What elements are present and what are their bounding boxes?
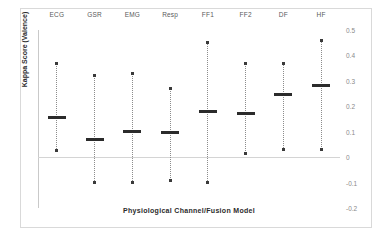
mean-marker bbox=[123, 130, 141, 133]
plot-area: ECGGSREMGRespFF1FF2DFHF bbox=[38, 30, 340, 208]
confidence-interval-whisker bbox=[132, 73, 134, 182]
category-column: Resp bbox=[151, 30, 189, 208]
y-tick-label: 0.4 bbox=[346, 52, 355, 59]
ci-lower-cap-marker bbox=[93, 181, 96, 184]
ci-lower-cap-marker bbox=[244, 152, 247, 155]
mean-marker bbox=[312, 84, 330, 87]
ci-lower-cap-marker bbox=[169, 179, 172, 182]
mean-marker bbox=[274, 93, 292, 96]
category-label: Resp bbox=[151, 11, 189, 18]
y-tick-label: 0 bbox=[346, 154, 350, 161]
category-label: FF2 bbox=[227, 11, 265, 18]
chart-figure: Kappa Score (Valence) ECGGSREMGRespFF1FF… bbox=[0, 0, 392, 244]
category-column: HF bbox=[302, 30, 340, 208]
ci-lower-cap-marker bbox=[282, 148, 285, 151]
category-column: GSR bbox=[76, 30, 114, 208]
y-tick-label: 0.1 bbox=[346, 128, 355, 135]
ci-upper-cap-marker bbox=[93, 74, 96, 77]
mean-marker bbox=[199, 110, 217, 113]
mean-marker bbox=[161, 131, 179, 134]
mean-marker bbox=[237, 112, 255, 115]
y-tick-label: -0.2 bbox=[346, 205, 357, 212]
ci-upper-cap-marker bbox=[206, 41, 209, 44]
ci-lower-cap-marker bbox=[320, 148, 323, 151]
mean-marker bbox=[86, 138, 104, 141]
ci-upper-cap-marker bbox=[320, 39, 323, 42]
ci-lower-cap-marker bbox=[131, 181, 134, 184]
category-column: DF bbox=[265, 30, 303, 208]
category-column: EMG bbox=[114, 30, 152, 208]
ci-lower-cap-marker bbox=[55, 149, 58, 152]
ci-upper-cap-marker bbox=[131, 72, 134, 75]
category-label: EMG bbox=[114, 11, 152, 18]
confidence-interval-whisker bbox=[283, 63, 285, 149]
y-axis-title: Kappa Score (Valence) bbox=[21, 0, 28, 110]
y-axis-tick-labels: 0.50.40.30.20.10-0.1-0.2 bbox=[346, 0, 376, 244]
ci-upper-cap-marker bbox=[244, 62, 247, 65]
category-column: ECG bbox=[38, 30, 76, 208]
ci-upper-cap-marker bbox=[169, 87, 172, 90]
y-tick-label: 0.3 bbox=[346, 77, 355, 84]
category-label: GSR bbox=[76, 11, 114, 18]
category-label: FF1 bbox=[189, 11, 227, 18]
mean-marker bbox=[48, 116, 66, 119]
category-label: HF bbox=[302, 11, 340, 18]
category-label: DF bbox=[265, 11, 303, 18]
y-tick-label: 0.5 bbox=[346, 27, 355, 34]
category-column: FF1 bbox=[189, 30, 227, 208]
category-label: ECG bbox=[38, 11, 76, 18]
ci-upper-cap-marker bbox=[55, 62, 58, 65]
confidence-interval-whisker bbox=[245, 63, 247, 153]
confidence-interval-whisker bbox=[56, 63, 58, 151]
ci-upper-cap-marker bbox=[282, 62, 285, 65]
confidence-interval-whisker bbox=[94, 76, 96, 183]
ci-lower-cap-marker bbox=[206, 181, 209, 184]
category-column: FF2 bbox=[227, 30, 265, 208]
y-tick-label: -0.1 bbox=[346, 179, 357, 186]
confidence-interval-whisker bbox=[321, 40, 323, 149]
x-axis-title: Physiological Channel/Fusion Model bbox=[38, 207, 340, 214]
y-tick-label: 0.2 bbox=[346, 103, 355, 110]
